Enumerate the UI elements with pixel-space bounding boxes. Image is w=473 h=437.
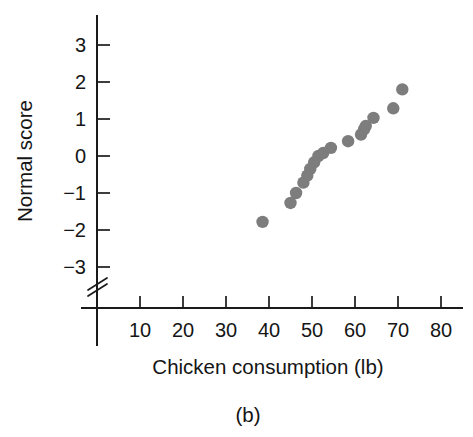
data-point: [325, 142, 337, 154]
normal-probability-plot-figure: 3 2 1 0 −1 −2 −3 10 20 30 40 50 60 70 80…: [0, 0, 473, 437]
x-tick-label-70: 70: [387, 319, 409, 341]
x-tick-label-30: 30: [215, 319, 237, 341]
data-point: [396, 83, 408, 95]
x-tick-label-40: 40: [258, 319, 280, 341]
x-tick-label-20: 20: [172, 319, 194, 341]
x-tick-label-80: 80: [430, 319, 452, 341]
y-tick-label-neg3: −3: [63, 256, 86, 278]
data-point: [342, 135, 354, 147]
y-tick-label-2: 2: [75, 71, 86, 93]
data-point: [256, 216, 268, 228]
data-point: [387, 102, 399, 114]
y-tick-label-neg2: −2: [63, 219, 86, 241]
plot-canvas: 3 2 1 0 −1 −2 −3 10 20 30 40 50 60 70 80…: [0, 0, 473, 437]
y-axis-title: Normal score: [13, 100, 36, 222]
x-axis-title: Chicken consumption (lb): [152, 355, 383, 378]
y-tick-label-3: 3: [75, 34, 86, 56]
x-axis-ticks: [140, 296, 441, 308]
figure-caption: (b): [235, 403, 260, 426]
x-tick-label-10: 10: [129, 319, 151, 341]
data-point: [290, 187, 302, 199]
x-tick-label-50: 50: [301, 319, 323, 341]
y-tick-label-neg1: −1: [63, 182, 86, 204]
data-points-group: [256, 83, 408, 228]
data-point: [367, 112, 379, 124]
y-axis-ticks: [97, 45, 110, 267]
y-tick-label-1: 1: [75, 108, 86, 130]
x-tick-label-60: 60: [344, 319, 366, 341]
y-tick-label-0: 0: [75, 145, 86, 167]
